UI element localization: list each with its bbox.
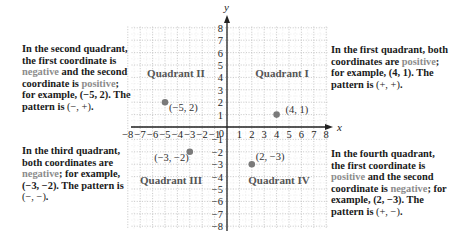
y-tick-label: 3 xyxy=(218,85,223,96)
point-label: (−5, 2) xyxy=(169,102,198,114)
point-label: (4, 1) xyxy=(286,104,309,116)
y-tick-label: 5 xyxy=(218,60,223,71)
quadrant-1-label: Quadrant I xyxy=(255,67,309,79)
y-tick-label: −8 xyxy=(212,221,223,232)
x-tick-label: 6 xyxy=(299,129,304,140)
coordinate-plane: x y −8−7−6−5−4−3−2−112345678012345678−1−… xyxy=(0,0,454,237)
quadrant-3-label: Quadrant III xyxy=(140,174,202,186)
y-tick-label: −3 xyxy=(212,159,223,170)
x-tick-label: 1 xyxy=(237,129,242,140)
x-tick-label: −5 xyxy=(159,129,170,140)
point-label: (−3, −2) xyxy=(154,152,189,164)
y-tick-label: 2 xyxy=(218,97,223,108)
x-tick-label: −3 xyxy=(184,129,195,140)
x-tick-label: −6 xyxy=(147,129,158,140)
y-tick-label: 7 xyxy=(218,35,223,46)
x-tick-label: 8 xyxy=(324,129,329,140)
x-tick-label: −2 xyxy=(197,129,208,140)
data-point xyxy=(162,99,169,106)
x-tick-label: −7 xyxy=(135,129,146,140)
y-tick-label: 4 xyxy=(218,72,224,83)
quadrant-4-label: Quadrant IV xyxy=(248,174,309,186)
data-point xyxy=(249,161,256,168)
data-point xyxy=(273,111,280,118)
x-axis-label: x xyxy=(336,121,342,133)
axes: x y xyxy=(131,1,342,231)
y-tick-label: −2 xyxy=(212,147,223,158)
x-tick-label: −4 xyxy=(172,129,184,140)
y-tick-label: −1 xyxy=(212,134,223,145)
y-tick-label: 1 xyxy=(218,110,223,121)
x-tick-label: −8 xyxy=(122,129,133,140)
y-tick-label: −4 xyxy=(212,172,224,183)
x-tick-label: 7 xyxy=(311,129,316,140)
y-axis-label: y xyxy=(223,1,229,13)
x-tick-label: 4 xyxy=(274,129,280,140)
y-tick-label: 8 xyxy=(218,23,223,34)
y-tick-label: −6 xyxy=(212,196,223,207)
point-label: (2, −3) xyxy=(256,151,285,163)
x-tick-label: 5 xyxy=(286,129,291,140)
y-tick-label: −7 xyxy=(212,209,223,220)
y-tick-label: 6 xyxy=(218,48,223,59)
y-axis-arrow-icon xyxy=(224,15,230,23)
x-tick-label: 3 xyxy=(262,129,267,140)
x-tick-label: 2 xyxy=(249,129,254,140)
y-tick-label: −5 xyxy=(212,184,223,195)
quadrant-2-label: Quadrant II xyxy=(147,67,205,79)
